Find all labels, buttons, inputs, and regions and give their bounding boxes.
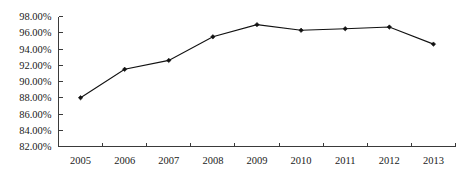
data-point-marker — [387, 25, 391, 29]
line-chart: 82.00%84.00%86.00%88.00%90.00%92.00%94.0… — [0, 0, 461, 185]
data-point-marker — [167, 58, 171, 62]
x-axis-tick-label: 2011 — [335, 155, 356, 166]
x-axis-tick-label: 2010 — [291, 155, 312, 166]
y-axis-tick-label: 88.00% — [19, 92, 52, 103]
y-axis-tick-label: 94.00% — [19, 44, 52, 55]
y-axis-tick-label: 98.00% — [19, 11, 52, 22]
x-axis-tick-label: 2013 — [423, 155, 444, 166]
x-axis-tick-marks — [59, 143, 456, 147]
y-axis-tick-label: 82.00% — [19, 141, 52, 152]
y-axis-tick-label: 96.00% — [19, 27, 52, 38]
y-axis-tick-label: 84.00% — [19, 125, 52, 136]
x-axis-tick-label: 2009 — [247, 155, 268, 166]
x-axis-tick-label: 2007 — [158, 155, 179, 166]
y-axis-tick-label: 90.00% — [19, 76, 52, 87]
y-axis-tick-marks — [59, 17, 63, 147]
x-axis-tick-label: 2008 — [202, 155, 223, 166]
x-axis-tick-label: 2005 — [70, 155, 91, 166]
y-axis-tick-label: 92.00% — [19, 60, 52, 71]
series-line-path — [81, 25, 434, 98]
x-axis-tick-label: 2006 — [114, 155, 135, 166]
y-axis-tick-labels: 82.00%84.00%86.00%88.00%90.00%92.00%94.0… — [19, 11, 52, 152]
chart-canvas: 82.00%84.00%86.00%88.00%90.00%92.00%94.0… — [0, 0, 461, 185]
series-data-markers — [78, 22, 435, 100]
data-point-marker — [211, 35, 215, 39]
data-point-marker — [255, 22, 259, 26]
data-point-marker — [343, 26, 347, 30]
x-axis-tick-label: 2012 — [379, 155, 400, 166]
y-axis-tick-label: 86.00% — [19, 109, 52, 120]
data-point-marker — [299, 28, 303, 32]
data-point-marker — [431, 42, 435, 46]
x-axis-tick-labels: 200520062007200820092010201120122013 — [70, 155, 444, 166]
